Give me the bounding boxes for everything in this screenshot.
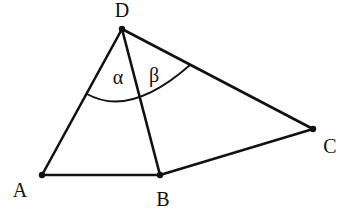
geometry-diagram: D A B C α β <box>0 0 339 220</box>
label-a: A <box>13 179 28 201</box>
label-b: B <box>156 188 169 210</box>
label-alpha: α <box>113 66 124 88</box>
point-b <box>157 172 163 178</box>
segment-bc <box>160 129 313 175</box>
label-c: C <box>323 135 336 157</box>
point-a <box>39 172 45 178</box>
label-beta: β <box>149 64 159 87</box>
label-d: D <box>115 0 129 21</box>
segment-db <box>122 29 160 175</box>
point-d <box>119 26 125 32</box>
point-c <box>310 126 316 132</box>
